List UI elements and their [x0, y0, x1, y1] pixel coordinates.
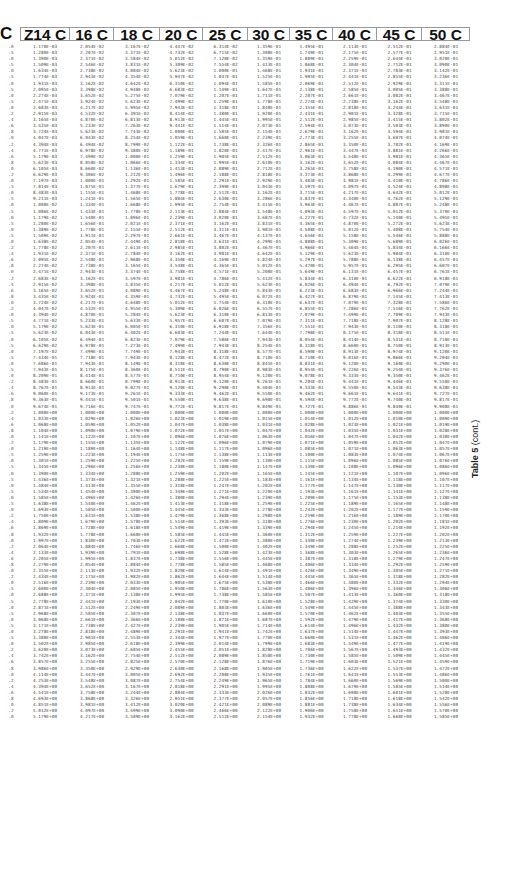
column-header: 40 C [333, 27, 377, 41]
table-caption-cont: (cont.) [470, 420, 480, 448]
table-cell: 2.154E+00 [248, 714, 290, 720]
table-cell: 5.179E+00 [20, 714, 70, 720]
table-cell: 1.778E+00 [333, 714, 377, 720]
table-header-row: Z14 C16 C18 C20 C25 C30 C35 C40 C45 C50 … [20, 27, 470, 41]
table-caption-title: Table 5 [470, 448, 480, 478]
column-header: 50 C [422, 27, 470, 41]
column-header: 30 C [248, 27, 290, 41]
table-cell: 3.162E+00 [160, 714, 203, 720]
table-body: 1.170E-032.054E-023.167E-024.447E-026.31… [20, 44, 470, 720]
left-stub-column: C .0.5.0.5.0.5.0.5.0.5.0.2.4.6.8.0.2.4.6… [0, 27, 20, 720]
left-stub-value: .0 [0, 714, 20, 720]
left-stub-header: C [0, 27, 20, 41]
column-header: 25 C [203, 27, 248, 41]
table-cell: 2.512E+00 [203, 714, 248, 720]
column-header: 16 C [70, 27, 114, 41]
data-table: Z14 C16 C18 C20 C25 C30 C35 C40 C45 C50 … [20, 27, 470, 720]
column-header: 35 C [290, 27, 333, 41]
left-stub-values: .0.5.0.5.0.5.0.5.0.5.0.2.4.6.8.0.2.4.6.8… [0, 44, 20, 720]
table-cell: 1.932E+00 [290, 714, 333, 720]
table-cell: 3.589E+00 [114, 714, 160, 720]
column-header: Z14 C [20, 27, 70, 41]
column-header: 18 C [114, 27, 160, 41]
table-cell: 1.585E+00 [422, 714, 470, 720]
column-header: 20 C [160, 27, 203, 41]
table-cell: 4.217E+00 [70, 714, 114, 720]
document-page: C .0.5.0.5.0.5.0.5.0.5.0.2.4.6.8.0.2.4.6… [0, 0, 505, 881]
table-row: 5.179E+004.217E+003.589E+003.162E+002.51… [20, 714, 470, 720]
table-cell: 1.668E+00 [377, 714, 422, 720]
column-header: 45 C [377, 27, 422, 41]
table-caption: Table 5 (cont.) [470, 398, 482, 478]
